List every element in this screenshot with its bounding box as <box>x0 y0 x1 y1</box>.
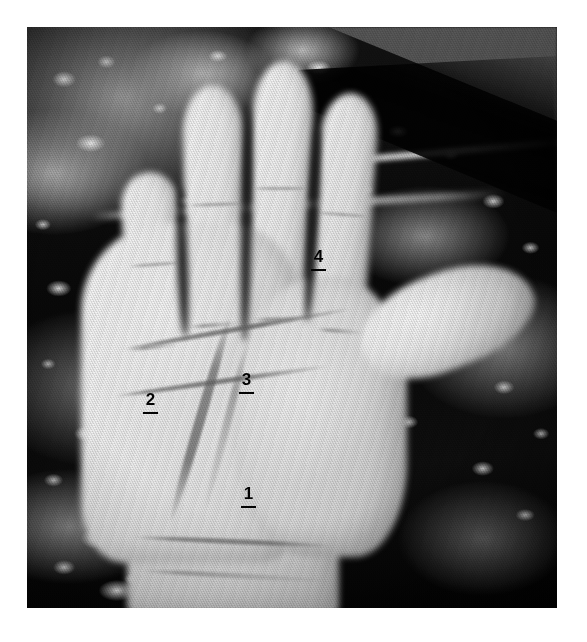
annotation-2-rule <box>143 412 158 414</box>
annotation-1-label: 1 <box>244 485 253 502</box>
annotation-2-label: 2 <box>146 391 155 408</box>
annotation-1: 1 <box>241 485 256 508</box>
annotation-3-rule <box>239 392 254 394</box>
figure-root: 1 2 3 4 <box>0 0 587 642</box>
knuckle-crease-ring <box>255 187 305 190</box>
hand <box>27 27 557 608</box>
annotation-1-rule <box>241 506 256 508</box>
annotation-3: 3 <box>239 371 254 394</box>
annotation-4-label: 4 <box>314 248 323 265</box>
annotation-4: 4 <box>311 248 326 271</box>
photograph: 1 2 3 4 <box>27 27 557 608</box>
annotation-2: 2 <box>143 391 158 414</box>
annotation-4-rule <box>311 269 326 271</box>
annotation-3-label: 3 <box>242 371 251 388</box>
